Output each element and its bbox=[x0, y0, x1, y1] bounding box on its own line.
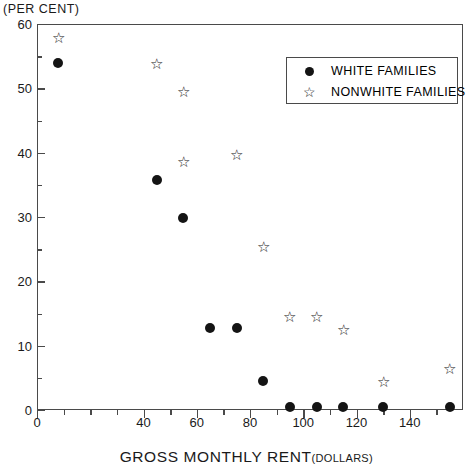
x-tick-label: 60 bbox=[175, 415, 219, 430]
x-tick-label: 100 bbox=[281, 415, 325, 430]
y-tick-label: 50 bbox=[2, 81, 32, 96]
data-point-white bbox=[178, 213, 188, 223]
x-tick bbox=[170, 410, 171, 415]
x-axis-title: GROSS MONTHLY RENT(DOLLARS) bbox=[0, 430, 473, 468]
x-tick bbox=[117, 410, 118, 415]
legend: WHITE FAMILIES ☆ NONWHITE FAMILIES bbox=[286, 57, 458, 104]
x-tick bbox=[436, 410, 437, 415]
filled-circle-icon bbox=[301, 62, 317, 80]
data-point-white bbox=[312, 402, 322, 412]
data-point-white bbox=[205, 323, 215, 333]
legend-entry-white: WHITE FAMILIES bbox=[287, 60, 457, 81]
data-point-nonwhite: ☆ bbox=[50, 30, 66, 46]
data-point-nonwhite: ☆ bbox=[175, 84, 191, 100]
data-point-white bbox=[378, 402, 388, 412]
data-point-white bbox=[285, 402, 295, 412]
y-tick-label: 60 bbox=[2, 17, 32, 32]
x-tick bbox=[277, 410, 278, 415]
x-tick-label: 140 bbox=[388, 415, 432, 430]
x-axis-title-sub: (DOLLARS) bbox=[312, 452, 373, 464]
data-point-nonwhite: ☆ bbox=[375, 374, 391, 390]
x-tick-label: 80 bbox=[228, 415, 272, 430]
y-tick-label: 20 bbox=[2, 274, 32, 289]
data-point-white bbox=[232, 323, 242, 333]
legend-label-white: WHITE FAMILIES bbox=[331, 64, 437, 78]
data-point-white bbox=[53, 58, 63, 68]
data-point-nonwhite: ☆ bbox=[175, 154, 191, 170]
x-tick bbox=[64, 410, 65, 415]
x-tick-label: 0 bbox=[15, 415, 59, 430]
x-tick-label: 40 bbox=[122, 415, 166, 430]
x-axis-title-main: GROSS MONTHLY RENT bbox=[120, 448, 312, 465]
data-point-nonwhite: ☆ bbox=[335, 322, 351, 338]
x-tick bbox=[330, 410, 331, 415]
data-point-nonwhite: ☆ bbox=[282, 309, 298, 325]
data-point-white bbox=[445, 402, 455, 412]
data-point-nonwhite: ☆ bbox=[309, 309, 325, 325]
data-point-nonwhite: ☆ bbox=[149, 56, 165, 72]
x-tick bbox=[90, 410, 91, 415]
y-tick-label: 30 bbox=[2, 210, 32, 225]
x-tick-label: 120 bbox=[335, 415, 379, 430]
y-tick-label: 10 bbox=[2, 338, 32, 353]
legend-entry-nonwhite: ☆ NONWHITE FAMILIES bbox=[287, 81, 457, 102]
data-point-nonwhite: ☆ bbox=[255, 239, 271, 255]
data-point-white bbox=[152, 175, 162, 185]
data-point-white bbox=[338, 402, 348, 412]
y-axis-unit-caption: (PER CENT) bbox=[3, 2, 80, 16]
data-point-white bbox=[258, 376, 268, 386]
open-star-icon: ☆ bbox=[301, 83, 317, 101]
legend-label-nonwhite: NONWHITE FAMILIES bbox=[331, 85, 466, 99]
y-tick-label: 40 bbox=[2, 145, 32, 160]
data-point-nonwhite: ☆ bbox=[442, 361, 458, 377]
data-point-nonwhite: ☆ bbox=[229, 147, 245, 163]
x-tick bbox=[223, 410, 224, 415]
